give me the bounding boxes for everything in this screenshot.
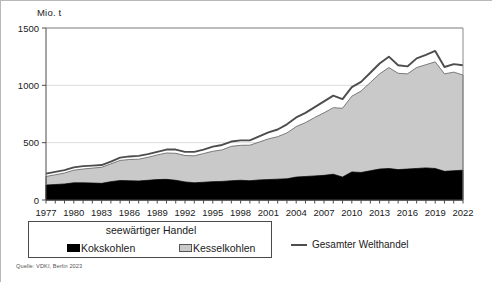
- x-axis-tick-label: 1998: [230, 207, 251, 218]
- x-axis-tick-label: 2010: [341, 207, 362, 218]
- x-axis-tick-label: 1995: [202, 207, 223, 218]
- legend-label-kokskohlen: Kokskohlen: [81, 242, 135, 254]
- x-axis-tick-label: 1986: [119, 207, 140, 218]
- x-axis-tick-label: 1980: [63, 207, 84, 218]
- legend-title: seewärtiger Handel: [29, 224, 273, 236]
- chart-frame: Mio. t 050010001500 19771980198319861989…: [0, 0, 492, 282]
- stacked-areas-group: [46, 62, 463, 200]
- legend-swatch-kokskohlen-icon: [67, 244, 80, 252]
- x-axis-tick-label: 2022: [452, 207, 473, 218]
- x-axis-tick-label: 2007: [313, 207, 334, 218]
- x-axis-ticks-group: 1977198019831986198919921995199820012004…: [35, 200, 473, 218]
- x-axis-tick-label: 1977: [35, 207, 56, 218]
- legend-label-kesselkohlen: Kesselkohlen: [193, 242, 255, 254]
- y-axis-tick-label: 500: [23, 137, 39, 148]
- x-axis-tick-label: 2004: [286, 207, 307, 218]
- legend-line-marker-icon: [291, 244, 307, 246]
- x-axis-tick-label: 1989: [147, 207, 168, 218]
- y-axis-tick-label: 0: [34, 195, 39, 206]
- y-axis-tick-label: 1500: [18, 23, 39, 34]
- legend-label-gesamter-welthandel: Gesamter Welthandel: [312, 239, 409, 250]
- x-axis-tick-label: 2019: [425, 207, 446, 218]
- legend-item-gesamter-welthandel: Gesamter Welthandel: [291, 239, 409, 250]
- x-axis-tick-label: 1992: [174, 207, 195, 218]
- source-note: Quelle: VDKI, Berlin 2023: [16, 263, 82, 269]
- x-axis-tick-label: 2001: [258, 207, 279, 218]
- x-axis-tick-label: 2013: [369, 207, 390, 218]
- y-axis-ticks-group: 050010001500: [18, 23, 46, 206]
- x-axis-tick-label: 2016: [397, 207, 418, 218]
- legend-swatch-kesselkohlen-icon: [179, 244, 192, 252]
- legend-item-kokskohlen: Kokskohlen: [67, 242, 135, 254]
- legend-item-kesselkohlen: Kesselkohlen: [179, 242, 255, 254]
- y-axis-tick-label: 1000: [18, 80, 39, 91]
- legend-box-seaborne-trade: seewärtiger Handel Kokskohlen Kesselkohl…: [28, 221, 272, 258]
- x-axis-tick-label: 1983: [91, 207, 112, 218]
